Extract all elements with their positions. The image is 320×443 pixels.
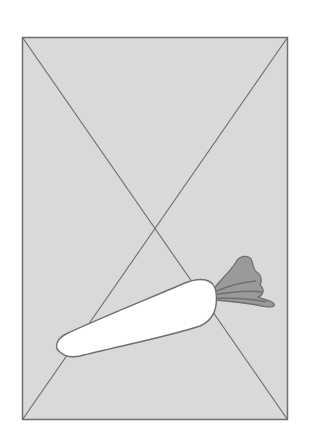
image-placeholder xyxy=(0,0,320,443)
